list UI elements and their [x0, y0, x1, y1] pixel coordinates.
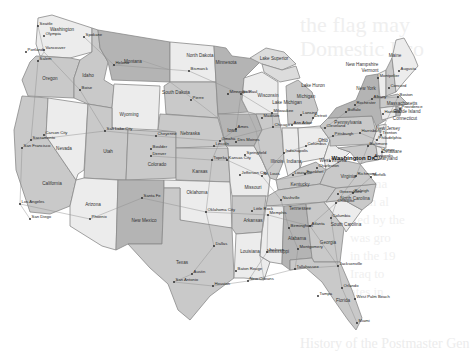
state-label: Lake Michigan	[272, 100, 302, 105]
city-label: Baton Rouge	[238, 266, 263, 271]
city-marker: Washington D.C.	[329, 155, 380, 162]
state-label: Tennessee	[289, 206, 312, 211]
city-label: San Antonio	[176, 277, 199, 282]
city-label: Oklahoma City	[208, 207, 236, 212]
city-label: Hartford	[385, 109, 401, 114]
city-label: Columbus	[308, 141, 327, 146]
city-label: Montpelier	[380, 73, 400, 78]
city-label: Ann Arbor	[294, 120, 313, 125]
city-marker: West Palm Beach	[354, 294, 390, 300]
city-label: Santa Fe	[144, 193, 162, 198]
city-label: Louisville	[295, 170, 313, 175]
state-label: Florida	[336, 298, 350, 303]
city-label: San Diego	[32, 214, 52, 219]
state-label: New Hampshire	[346, 62, 379, 67]
city-label: Boston	[400, 92, 414, 97]
city-label: Sacramento	[33, 135, 56, 140]
city-label: Cheyenne	[158, 131, 178, 136]
city-label: Providence	[402, 104, 424, 109]
state-label: Connecticut	[393, 116, 418, 121]
city-label: San Francisco	[24, 143, 51, 148]
city-label: Tampa	[320, 291, 333, 296]
city-label: Detroit	[315, 113, 328, 118]
state-label: Missouri	[244, 185, 261, 190]
city-label: Rochester	[357, 100, 377, 105]
city-label: Los Angeles	[22, 199, 45, 204]
city-label: Houston	[215, 281, 231, 286]
city-label: Olympia	[46, 31, 62, 36]
city-label: Pittsburgh	[335, 131, 355, 136]
city-label: Salem	[40, 56, 52, 61]
state-label: Wisconsin	[258, 93, 279, 98]
city-label: Madison	[264, 113, 280, 118]
city-marker: Norfolk	[370, 172, 387, 178]
state-new-mexico	[116, 180, 164, 250]
city-label: Montgomery	[300, 244, 324, 249]
city-label: Salt Lake City	[107, 126, 134, 131]
state-label: Nebraska	[180, 131, 200, 136]
city-marker: Detroit	[312, 113, 328, 119]
city-label: Birmingham	[291, 223, 314, 228]
state-kansas	[176, 148, 230, 182]
city-label: Seattle	[40, 21, 54, 26]
state-label: Alabama	[288, 236, 307, 241]
state-label: Arizona	[85, 202, 101, 207]
state-label: Lake Huron	[301, 83, 325, 88]
state-label: New York	[356, 86, 376, 91]
city-label: Albany	[374, 94, 388, 99]
state-label: Texas	[176, 260, 189, 265]
state-label: South Dakota	[162, 90, 190, 95]
city-label: Vancouver	[46, 45, 66, 50]
state-label: North Dakota	[186, 53, 214, 58]
city-label: Harrisburg	[362, 128, 382, 133]
city-label: Pierre	[193, 95, 205, 100]
city-label: Boulder	[153, 144, 168, 149]
city-label: Philadelphia	[379, 135, 402, 140]
city-label: Helena	[116, 60, 130, 65]
state-label: Maine	[389, 53, 402, 58]
city-label: Charleston	[319, 163, 340, 168]
state-label: Oregon	[42, 76, 58, 81]
city-label: Norfolk	[373, 172, 387, 177]
state-wyoming	[112, 84, 160, 130]
city-label: Orlando	[344, 283, 360, 288]
state-label: Indiana	[286, 159, 302, 164]
city-label: Atlanta	[312, 221, 326, 226]
state-label: Utah	[103, 149, 113, 154]
city-label: Columbia	[333, 213, 351, 218]
state-label: Colorado	[148, 162, 167, 167]
state-label: Virginia	[340, 174, 356, 179]
city-label: Kansas City	[229, 155, 252, 160]
city-label: West Palm Beach	[357, 294, 391, 299]
state-label: Oklahoma	[187, 190, 208, 195]
city-label: Indianapolis	[286, 148, 308, 153]
state-label: Nevada	[56, 146, 72, 151]
city-label: Lincoln	[216, 141, 230, 146]
city-label: Phoenix	[92, 214, 108, 219]
city-marker: San Diego	[29, 214, 52, 220]
city-label: Little Rock	[254, 206, 274, 211]
state-label: Minnesota	[215, 60, 237, 65]
city-label: Nashville	[283, 195, 301, 200]
city-label: Bismarck	[191, 66, 209, 71]
state-label: Kansas	[192, 169, 208, 174]
city-label: New Orleans	[250, 276, 274, 281]
state-label: Louisiana	[240, 249, 260, 254]
city-label: Tallahassee	[297, 264, 320, 269]
city-label: Ames	[238, 124, 249, 129]
city-label: Dallas	[216, 241, 228, 246]
state-label: Vermont	[361, 68, 379, 73]
city-label: Trenton	[383, 130, 398, 135]
city-label: Topeka	[214, 155, 228, 160]
city-marker: Ann Arbor	[291, 120, 313, 126]
city-label: Baltimore	[370, 141, 388, 146]
city-label: Spokane	[86, 32, 103, 37]
city-label: Denver	[153, 151, 167, 156]
city-label: Jacksonville	[340, 261, 363, 266]
state-montana	[98, 30, 170, 82]
city-label: Concord	[391, 83, 407, 88]
state-label: Arkansas	[243, 218, 263, 223]
state-colorado	[126, 130, 176, 180]
city-label: Jackson	[269, 247, 285, 252]
